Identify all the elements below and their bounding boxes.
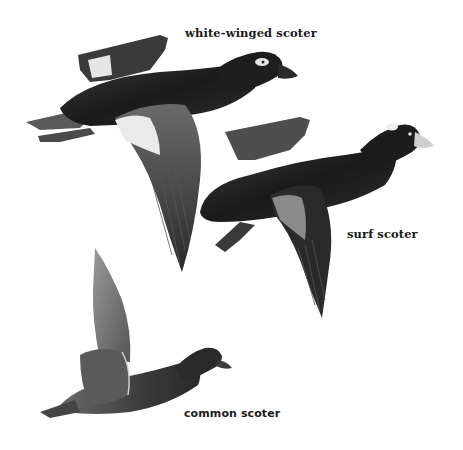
bird-illustration-plate: white-winged scoter surf scoter common s… (0, 0, 463, 450)
common-scoter-label: common scoter (184, 407, 280, 420)
surf-scoter-label: surf scoter (347, 227, 418, 241)
common-scoter-illustration (40, 248, 232, 418)
surf-scoter-illustration (200, 117, 434, 318)
white-winged-scoter-label: white-winged scoter (185, 26, 317, 40)
scoters-illustration (0, 0, 463, 450)
